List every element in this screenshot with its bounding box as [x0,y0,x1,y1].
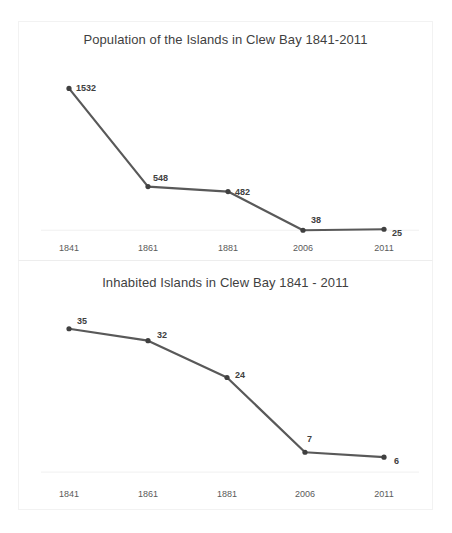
chart1-marker-2011 [381,227,386,232]
chart1-tick-1861: 1861 [128,244,168,253]
charts-page: Population of the Islands in Clew Bay 18… [0,0,452,533]
chart2-tick-2006: 2006 [285,490,325,499]
chart1-plot-area [19,22,434,260]
chart1-marker-1861 [145,184,150,189]
chart1-marker-1881 [225,189,230,194]
chart2-tick-2011: 2011 [364,490,404,499]
chart2-marker-1841 [66,326,71,331]
chart2-data-label-1861: 32 [157,331,167,340]
chart1-data-label-1841: 1532 [76,84,96,93]
chart2-data-label-1881: 24 [235,371,245,380]
chart2-svg [19,261,434,509]
chart2-marker-2006 [302,450,307,455]
chart1-data-label-2006: 38 [311,216,321,225]
chart2-marker-1881 [224,375,229,380]
chart1-series-line [69,88,384,230]
chart2-marker-2011 [381,455,386,460]
chart2-data-label-2006: 7 [307,435,312,444]
chart1-tick-2006: 2006 [283,244,323,253]
chart2-tick-1841: 1841 [49,490,89,499]
chart1-tick-1841: 1841 [49,244,89,253]
inhabited-islands-chart-card: Inhabited Islands in Clew Bay 1841 - 201… [18,261,433,510]
chart1-marker-2006 [300,228,305,233]
population-chart-card: Population of the Islands in Clew Bay 18… [18,21,433,261]
chart2-tick-1881: 1881 [207,490,247,499]
chart2-data-label-1841: 35 [77,317,87,326]
chart2-series-line [69,329,384,457]
chart1-tick-2011: 2011 [364,244,404,253]
chart2-data-label-2011: 6 [394,457,399,466]
chart1-svg [19,22,434,260]
chart1-data-label-1881: 482 [235,188,250,197]
chart1-data-label-1861: 548 [153,174,168,183]
chart1-tick-1881: 1881 [208,244,248,253]
chart2-tick-1861: 1861 [128,490,168,499]
chart1-data-label-2011: 25 [392,229,402,238]
chart2-plot-area [19,261,434,509]
chart1-marker-1841 [66,86,71,91]
chart2-marker-1861 [145,338,150,343]
